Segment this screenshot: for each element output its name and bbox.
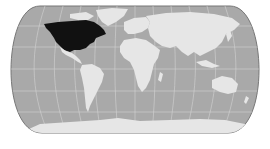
world-map	[0, 0, 270, 149]
